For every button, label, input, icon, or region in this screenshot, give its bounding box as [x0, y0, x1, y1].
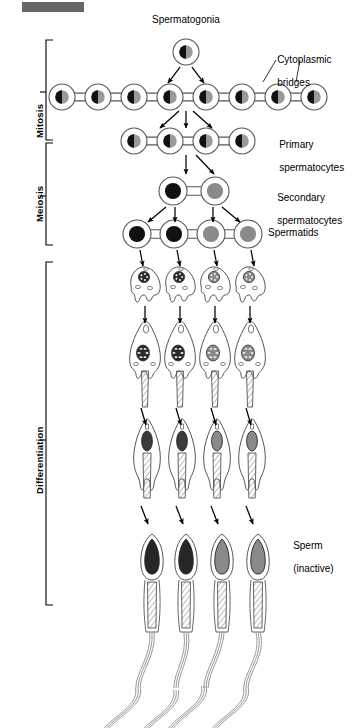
- early-spermatid-3-organelle: [252, 286, 257, 289]
- mid-spermatid-2-nucleus-speckle: [216, 352, 219, 354]
- secondary-spermatocyte-cell-nucleus: [165, 183, 181, 199]
- early-spermatid-0-organelle: [147, 286, 152, 289]
- mid-spermatid-1-nucleus-speckle: [178, 356, 181, 358]
- early-spermatid-1-organelle: [182, 286, 187, 289]
- arrow-to-sperm-1: [176, 506, 183, 524]
- mid-spermatid-0-nucleus-speckle: [138, 352, 141, 354]
- secondary-spermatocyte-bridge: [186, 187, 202, 195]
- early-spermatid-2-organelle: [205, 285, 210, 288]
- mid-spermatid-0-nucleus-speckle: [144, 348, 147, 350]
- early-spermatid-0-organelle: [135, 285, 140, 288]
- early-spermatid-1-nucleus-speckle: [175, 274, 177, 276]
- mid-spermatid-2-nucleus-speckle: [214, 348, 217, 350]
- stage-label-meiosis: Meiosis: [34, 186, 45, 222]
- label-secondary-spermatocytes-line1: Secondary: [277, 192, 325, 203]
- mid-spermatid-2-midpiece: [212, 371, 219, 407]
- early-spermatid-3-nucleus-speckle: [249, 279, 251, 281]
- early-spermatid-2-nucleus-speckle: [214, 279, 216, 281]
- mid-spermatid-3-organelle: [239, 362, 244, 365]
- stage-label-mitosis: Mitosis: [34, 104, 45, 138]
- early-spermatid-2-nucleus-speckle: [210, 274, 212, 276]
- early-spermatid-1-nucleus-speckle: [179, 273, 181, 275]
- early-spermatid-0-nucleus-speckle: [140, 274, 142, 276]
- primary-spermatocyte-bridge: [218, 137, 230, 145]
- mid-spermatid-2-acrosome: [213, 325, 218, 333]
- mid-spermatid-3-nucleus-speckle: [248, 356, 251, 358]
- spermatid-cell-nucleus: [166, 226, 182, 242]
- mid-spermatid-3-nucleus-speckle: [243, 352, 246, 354]
- mitotic-chain-bridge: [182, 93, 194, 101]
- early-spermatid-0-acrosome: [144, 268, 148, 271]
- early-spermatid-2-nucleus-speckle: [211, 278, 213, 280]
- label-spermatids: Spermatids: [268, 227, 319, 239]
- early-spermatid-3-nucleus-speckle: [245, 274, 247, 276]
- arrow-chain-left: [160, 111, 179, 128]
- early-spermatid-2-acrosome: [214, 268, 218, 271]
- mid-spermatid-2-nucleus-speckle: [208, 352, 211, 354]
- late-spermatid-3-nucleus: [247, 431, 258, 451]
- sperm-2-flagellum: [204, 632, 220, 688]
- flagellum-tail-0: [100, 688, 140, 728]
- late-spermatid-2: [204, 419, 231, 498]
- mid-spermatid-0-nucleus-speckle: [140, 348, 143, 350]
- mid-spermatid-1-nucleus-speckle: [181, 352, 184, 354]
- mid-spermatid-1-nucleus-speckle: [175, 348, 178, 350]
- early-spermatid-1-nucleus-speckle: [179, 279, 181, 281]
- flagellum-tail-3: [208, 688, 248, 728]
- figure-canvas: Mitosis Meiosis Differentiation Spermato…: [0, 0, 353, 728]
- sperm-1-midpiece: [182, 582, 191, 628]
- mid-spermatid-1-organelle: [186, 362, 191, 365]
- mid-spermatid-0-organelle: [134, 362, 139, 365]
- mid-spermatid-2-nucleus-speckle: [209, 356, 212, 358]
- mitotic-chain-bridge: [254, 93, 266, 101]
- early-spermatid-0-nucleus-speckle: [144, 279, 146, 281]
- arrow-spermatogonia-right: [192, 67, 204, 83]
- arrow-to-early-1: [177, 250, 180, 266]
- early-spermatid-0: [131, 267, 161, 302]
- arrow-chain-right: [193, 111, 212, 128]
- early-spermatid-1-acrosome: [179, 268, 183, 271]
- label-spermatogonia: Spermatogonia: [152, 14, 220, 26]
- early-spermatid-2-nucleus-speckle: [216, 276, 218, 278]
- mid-spermatid-3-nucleus-speckle: [249, 348, 252, 350]
- early-spermatid-2-nucleus-speckle: [214, 273, 216, 275]
- mitotic-chain-bridge: [218, 93, 230, 101]
- arrow-primary-right: [196, 155, 214, 174]
- sperm-3: [244, 534, 269, 688]
- label-primary-spermatocytes-line2: spermatocytes: [279, 162, 344, 173]
- spermatid-bridge: [187, 230, 198, 238]
- mid-spermatid-0-organelle: [151, 362, 156, 365]
- arrow-to-early-2: [214, 250, 217, 266]
- mid-spermatid-3-nucleus-speckle: [244, 356, 247, 358]
- early-spermatid-1: [166, 267, 196, 302]
- late-spermatid-3-midpiece: [248, 453, 256, 498]
- sperm-2-flagellum: [208, 632, 224, 688]
- secondary-spermatocyte-cell-nucleus: [207, 183, 223, 199]
- sperm-0: [136, 534, 163, 688]
- label-sperm-inactive: Sperm (inactive): [282, 528, 334, 586]
- mid-spermatid-3: [235, 321, 266, 407]
- sperm-3-midpiece: [254, 582, 263, 628]
- mid-spermatid-3-organelle: [256, 362, 261, 365]
- mid-spermatid-1-midpiece: [177, 371, 184, 407]
- mid-spermatid-1: [165, 321, 196, 407]
- late-spermatid-2-nucleus: [212, 431, 223, 451]
- mid-spermatid-2-nucleus-speckle: [213, 356, 216, 358]
- mitotic-chain-bridge: [74, 93, 86, 101]
- mid-spermatid-2-nucleus-speckle: [210, 348, 213, 350]
- sperm-2: [204, 534, 233, 688]
- label-primary-spermatocytes: Primary spermatocytes: [268, 127, 344, 185]
- early-spermatid-1-nucleus-speckle: [181, 276, 183, 278]
- early-spermatid-3-nucleus-speckle: [251, 276, 253, 278]
- mid-spermatid-0-nucleus-speckle: [146, 352, 149, 354]
- arrow-to-sperm-2: [211, 506, 218, 524]
- sperm-2-flagellum: [206, 632, 222, 688]
- mitotic-chain-bridge: [110, 93, 122, 101]
- mid-spermatid-3-nucleus-speckle: [245, 348, 248, 350]
- early-spermatid-3-nucleus-speckle: [246, 278, 248, 280]
- label-cytoplasmic-bridges: Cytoplasmic bridges: [266, 42, 332, 100]
- late-spermatid-0: [134, 419, 161, 498]
- early-spermatid-3-nucleus-speckle: [249, 273, 251, 275]
- arrow-to-early-3: [251, 250, 254, 266]
- early-spermatid-0-nucleus-speckle: [146, 276, 148, 278]
